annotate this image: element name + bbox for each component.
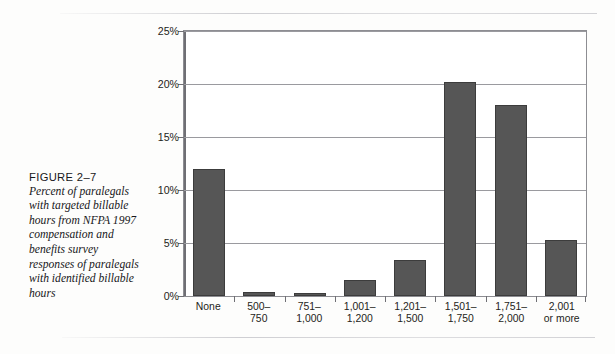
x-axis-label-line: 2,000 — [486, 313, 537, 325]
y-tick-label: 25% — [158, 25, 179, 37]
bar — [193, 169, 225, 296]
x-axis-label-line: 751– — [284, 301, 335, 313]
x-axis-label-line: 500– — [234, 301, 285, 313]
bar-slot — [184, 31, 234, 296]
bar — [545, 240, 577, 296]
x-axis-label-line: 1,200 — [335, 313, 386, 325]
bar — [294, 293, 326, 296]
x-axis-label-line: 2,001 — [537, 301, 588, 313]
x-axis-label: 1,201–1,500 — [385, 301, 436, 326]
x-axis-label-line: 750 — [234, 313, 285, 325]
x-axis-label: 1,501–1,750 — [436, 301, 487, 326]
x-axis-label: 751–1,000 — [284, 301, 335, 326]
scanned-page: FIGURE 2–7 Percent of paralegals with ta… — [0, 0, 615, 354]
x-axis-label-line: 1,750 — [436, 313, 487, 325]
x-axis-label-line: None — [183, 301, 234, 313]
y-tick-label: 20% — [158, 78, 179, 90]
figure-number: FIGURE 2–7 — [29, 170, 145, 185]
bar — [344, 280, 376, 296]
bar — [444, 82, 476, 296]
bar-slot — [536, 31, 586, 296]
figure-caption: FIGURE 2–7 Percent of paralegals with ta… — [29, 170, 145, 301]
y-tick-label: 0% — [164, 290, 179, 302]
y-tick-label: 10% — [158, 184, 179, 196]
figure-caption-text: Percent of paralegals with targeted bill… — [29, 185, 145, 302]
bar — [394, 260, 426, 296]
page-rule-bottom — [62, 337, 595, 338]
x-axis-labels: None500–750751–1,0001,001–1,2001,201–1,5… — [183, 301, 587, 326]
x-axis-label-line: 1,500 — [385, 313, 436, 325]
x-axis-label: 2,001or more — [537, 301, 588, 326]
x-axis-label-line: 1,501– — [436, 301, 487, 313]
y-tick-label: 15% — [158, 131, 179, 143]
bar-slot — [335, 31, 385, 296]
bar-slot — [234, 31, 284, 296]
plot-area: 0%5%10%15%20%25% — [183, 30, 587, 297]
x-axis-label: 1,001–1,200 — [335, 301, 386, 326]
bar-slot — [385, 31, 435, 296]
x-axis-label: 500–750 — [234, 301, 285, 326]
bar-slot — [285, 31, 335, 296]
bar-series — [184, 31, 586, 296]
bar — [243, 292, 275, 296]
x-axis-label-line: 1,201– — [385, 301, 436, 313]
y-tick-label: 5% — [164, 237, 179, 249]
x-axis-label: 1,751–2,000 — [486, 301, 537, 326]
x-axis-label-line: or more — [537, 313, 588, 325]
x-axis-label-line: 1,751– — [486, 301, 537, 313]
page-rule-top — [60, 13, 597, 14]
x-axis-label-line: 1,000 — [284, 313, 335, 325]
bar-chart: 0%5%10%15%20%25% None500–750751–1,0001,0… — [150, 22, 595, 322]
bar — [495, 105, 527, 296]
x-axis-label-line: 1,001– — [335, 301, 386, 313]
bar-slot — [435, 31, 485, 296]
bar-slot — [486, 31, 536, 296]
x-axis-label: None — [183, 301, 234, 326]
